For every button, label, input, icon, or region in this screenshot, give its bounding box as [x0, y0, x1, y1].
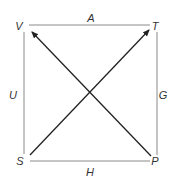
- diagram-canvas: V T S P A G H U: [0, 0, 177, 178]
- edge-label-U: U: [9, 89, 17, 101]
- edge-label-H: H: [86, 166, 94, 178]
- vertex-label-P: P: [151, 155, 159, 167]
- edge-label-A: A: [86, 12, 94, 24]
- edge-label-G: G: [159, 89, 168, 101]
- vertex-label-T: T: [152, 20, 160, 32]
- arrow-P-to-V: [32, 32, 151, 156]
- vertex-label-S: S: [16, 155, 24, 167]
- vertex-label-V: V: [15, 20, 24, 32]
